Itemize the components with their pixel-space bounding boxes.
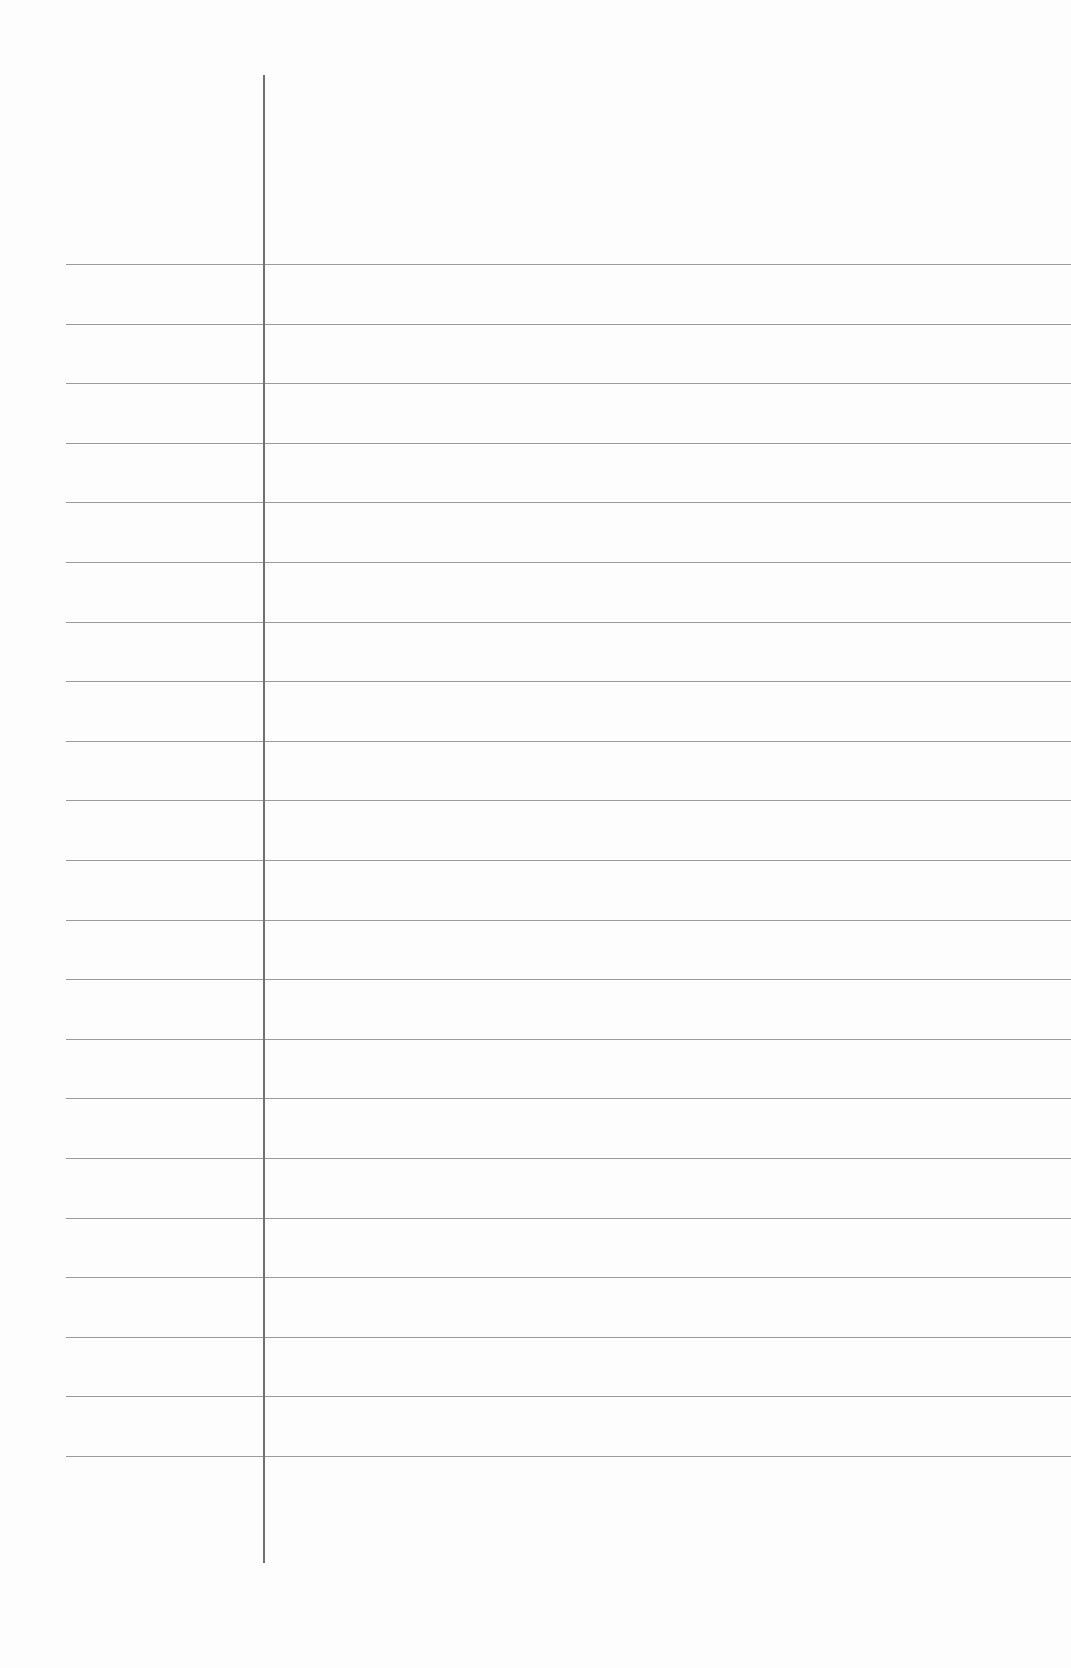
ruled-line [66, 1337, 1071, 1338]
ruled-line [66, 1396, 1071, 1397]
ruled-paper [0, 0, 1071, 1668]
ruled-line [66, 324, 1071, 325]
ruled-line [66, 264, 1071, 265]
ruled-line [66, 502, 1071, 503]
ruled-line [66, 1039, 1071, 1040]
ruled-line [66, 1277, 1071, 1278]
ruled-line [66, 920, 1071, 921]
ruled-line [66, 741, 1071, 742]
margin-line [263, 75, 265, 1563]
ruled-line [66, 622, 1071, 623]
ruled-line [66, 383, 1071, 384]
ruled-line [66, 1098, 1071, 1099]
ruled-line [66, 860, 1071, 861]
ruled-line [66, 800, 1071, 801]
ruled-line [66, 443, 1071, 444]
ruled-line [66, 1456, 1071, 1457]
ruled-line [66, 1218, 1071, 1219]
ruled-line [66, 681, 1071, 682]
ruled-line [66, 562, 1071, 563]
ruled-line [66, 979, 1071, 980]
ruled-line [66, 1158, 1071, 1159]
